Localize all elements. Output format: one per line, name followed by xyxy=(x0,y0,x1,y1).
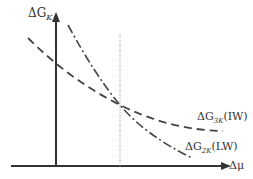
diagram-canvas: ΔGK Δμ ΔG3K(IW) ΔG2K(LW) xyxy=(0,0,253,179)
y-axis-label: ΔGK xyxy=(28,6,53,22)
curve-label-dg3k-iw: ΔG3K(IW) xyxy=(197,110,248,125)
curve-dg3k-iw xyxy=(28,38,223,131)
curve-dg2k-lw xyxy=(68,25,192,158)
x-axis-label: Δμ xyxy=(229,159,244,172)
curve-label-dg2k-lw: ΔG2K(LW) xyxy=(185,140,238,155)
